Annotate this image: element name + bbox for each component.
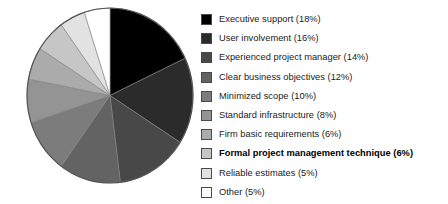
legend-label: Other (5%) [219,187,265,198]
legend-swatch [201,148,212,159]
legend-item[interactable]: Other (5%) [201,183,445,202]
legend-label: Experienced project manager (14%) [219,52,369,63]
legend-swatch [201,91,212,102]
legend-label: Minimized scope (10%) [219,91,316,102]
legend-item[interactable]: Experienced project manager (14%) [201,48,445,67]
legend-swatch [201,168,212,179]
legend-label: Formal project management technique (6%) [219,148,413,159]
legend-label: Executive support (18%) [219,14,321,25]
legend: Executive support (18%)User involvement … [201,10,445,202]
pie-chart [26,7,194,184]
legend-item[interactable]: Firm basic requirements (6%) [201,125,445,144]
legend-swatch [201,110,212,121]
pie-slice-group [27,8,193,183]
legend-swatch [201,129,212,140]
legend-label: Clear business objectives (12%) [219,72,352,83]
legend-item[interactable]: Executive support (18%) [201,10,445,29]
legend-item[interactable]: Reliable estimates (5%) [201,164,445,183]
pie-chart-svg [26,7,194,184]
legend-label: Standard infrastructure (8%) [219,110,336,121]
legend-item[interactable]: Formal project management technique (6%) [201,144,445,163]
legend-swatch [201,72,212,83]
legend-swatch [201,187,212,198]
legend-swatch [201,52,212,63]
legend-item[interactable]: Minimized scope (10%) [201,87,445,106]
legend-label: Reliable estimates (5%) [219,168,318,179]
legend-swatch [201,33,212,44]
legend-label: User involvement (16%) [219,33,319,44]
legend-item[interactable]: User involvement (16%) [201,29,445,48]
legend-label: Firm basic requirements (6%) [219,129,341,140]
pie-chart-figure: Executive support (18%)User involvement … [0,0,448,204]
legend-swatch [201,14,212,25]
legend-item[interactable]: Standard infrastructure (8%) [201,106,445,125]
legend-item[interactable]: Clear business objectives (12%) [201,68,445,87]
